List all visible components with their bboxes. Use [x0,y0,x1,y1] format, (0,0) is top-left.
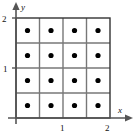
x-tick-label-1: 1 [60,123,65,133]
x-tick-label-2: 2 [105,123,110,133]
data-point [95,78,100,83]
data-point [72,53,77,58]
data-point [25,53,30,58]
data-point [48,53,53,58]
x-axis-label: x [117,105,122,115]
lattice-grid-figure: y x 2 1 1 2 [0,0,136,135]
y-tick-label-1: 1 [3,64,8,74]
data-point [95,53,100,58]
data-point [48,78,53,83]
data-point [25,78,30,83]
data-point [72,28,77,33]
y-axis-label: y [20,2,25,12]
data-point [25,28,30,33]
data-point [25,103,30,108]
data-point [72,103,77,108]
x-axis-arrow-icon [125,114,133,121]
data-point [72,78,77,83]
data-point [95,103,100,108]
y-axis-arrow-icon [12,2,19,10]
y-tick-label-2: 2 [2,14,7,24]
data-point [48,28,53,33]
data-point [95,28,100,33]
figure-container: y x 2 1 1 2 [0,0,136,135]
data-point [48,103,53,108]
